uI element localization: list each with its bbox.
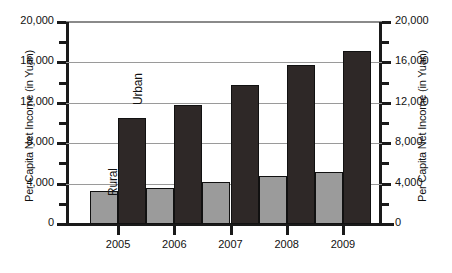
y-tick-right (382, 183, 391, 186)
y-tick-left (59, 162, 66, 165)
y-tick-left (57, 223, 66, 226)
bar-rural-2007 (202, 182, 230, 224)
bar-urban-2008 (287, 65, 315, 224)
x-tick-2007 (230, 226, 233, 235)
y-tick-label-left: 0 (8, 216, 54, 228)
bar-chart: Per Capita Net Income (in Yuan) Per Capi… (0, 0, 452, 273)
y-tick-left (59, 122, 66, 125)
y-tick-label-left: 8,000 (8, 135, 54, 147)
x-tick-label-2007: 2007 (207, 238, 255, 250)
x-tick-2008 (286, 226, 289, 235)
y-tick-left (59, 203, 66, 206)
y-tick-right (382, 21, 391, 24)
y-tick-left (57, 61, 66, 64)
y-tick-right (382, 102, 391, 105)
bar-urban-2007 (231, 85, 259, 224)
x-tick-label-2009: 2009 (319, 238, 367, 250)
y-tick-left (59, 41, 66, 44)
series-label-rural: Rural (106, 168, 120, 196)
y-tick-right (382, 162, 389, 165)
y-tick-right (382, 142, 391, 145)
bar-urban-2006 (174, 105, 202, 224)
y-tick-left (57, 183, 66, 186)
x-tick-2006 (173, 226, 176, 235)
y-tick-label-left: 16,000 (8, 54, 54, 66)
y-tick-right (382, 203, 389, 206)
y-tick-right (382, 82, 389, 85)
y-tick-right (382, 223, 391, 226)
x-tick-label-2008: 2008 (263, 238, 311, 250)
y-tick-left (57, 102, 66, 105)
y-tick-label-right: 0 (395, 216, 445, 228)
gridline (66, 103, 382, 104)
y-tick-label-left: 4,000 (8, 176, 54, 188)
y-tick-label-right: 20,000 (395, 14, 445, 26)
bar-rural-2005 (90, 191, 118, 224)
y-tick-right (382, 61, 391, 64)
x-tick-label-2005: 2005 (94, 238, 142, 250)
x-tick-2009 (342, 226, 345, 235)
bar-rural-2008 (259, 176, 287, 224)
bar-rural-2009 (315, 172, 343, 224)
series-label-urban: Urban (131, 73, 145, 105)
y-tick-left (59, 82, 66, 85)
y-tick-right (382, 41, 389, 44)
y-tick-label-right: 8,000 (395, 135, 445, 147)
x-tick-label-2006: 2006 (150, 238, 198, 250)
y-tick-label-left: 20,000 (8, 14, 54, 26)
x-tick-2005 (117, 226, 120, 235)
bar-urban-2005 (118, 118, 146, 224)
y-tick-left (57, 142, 66, 145)
y-tick-label-right: 4,000 (395, 176, 445, 188)
y-tick-left (57, 21, 66, 24)
y-tick-label-left: 12,000 (8, 95, 54, 107)
y-tick-label-right: 12,000 (395, 95, 445, 107)
gridline (66, 62, 382, 63)
y-tick-right (382, 122, 389, 125)
gridline (66, 143, 382, 144)
bar-rural-2006 (146, 188, 174, 224)
bar-urban-2009 (343, 51, 371, 224)
y-tick-label-right: 16,000 (395, 54, 445, 66)
